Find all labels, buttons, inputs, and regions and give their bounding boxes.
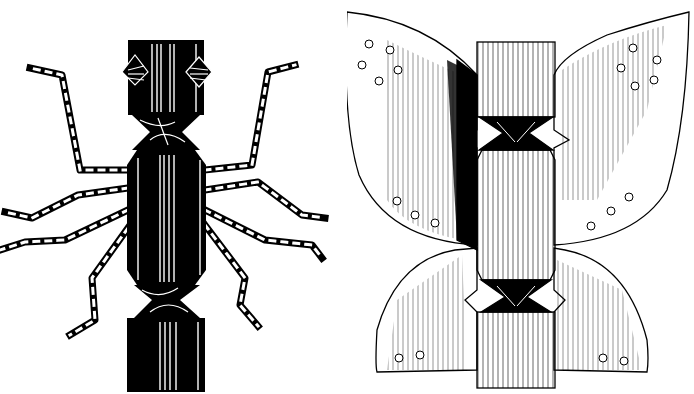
butterfly-lower-right-wing [554, 248, 648, 372]
spider-head [122, 40, 212, 150]
spider-tail [127, 318, 205, 392]
butterfly-upper-right-wing [554, 12, 689, 245]
butterfly-lower-left-wing [376, 248, 477, 372]
butterfly-cracker-illustration [347, 0, 694, 394]
spider-cracker-illustration [0, 0, 347, 394]
spider-body [127, 150, 206, 318]
